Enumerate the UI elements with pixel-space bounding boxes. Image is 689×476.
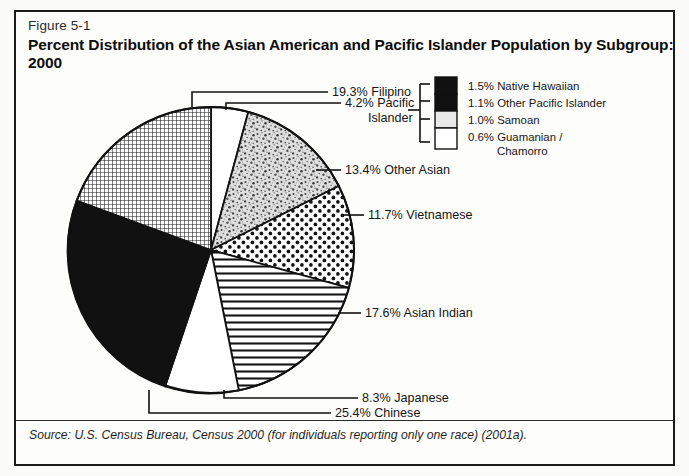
label-pacific-islander-line1: 4.2% Pacific	[345, 96, 414, 110]
legend-item-other-pacific-islander: 1.1% Other Pacific Islander	[468, 97, 606, 109]
legend-labels: 1.5% Native Hawaiian 1.1% Other Pacific …	[468, 80, 606, 157]
legend-item-native-hawaiian: 1.5% Native Hawaiian	[468, 80, 579, 92]
legend-swatch-native-hawaiian	[435, 77, 457, 94]
leader-line-chinese	[149, 390, 331, 413]
legend-swatch-other-pacific-islander	[435, 94, 457, 111]
legend-item-chamorro: Chamorro	[497, 145, 548, 157]
leader-line-filipino	[192, 92, 328, 107]
label-japanese: 8.3% Japanese	[362, 391, 449, 405]
label-asian-indian: 17.6% Asian Indian	[365, 306, 473, 320]
label-other-asian: 13.4% Other Asian	[345, 163, 450, 177]
label-pacific-islander-line2: Islander	[368, 111, 413, 125]
figure-container: Figure 5-1 Percent Distribution of the A…	[0, 0, 689, 476]
legend-item-samoan: 1.0% Samoan	[468, 114, 540, 126]
legend-swatches	[435, 77, 457, 149]
pie-chart: 19.3% Filipino 4.2% Pacific Islander 13.…	[16, 60, 673, 418]
legend-item-guamanian: 0.6% Guamanian /	[468, 131, 563, 143]
leader-line-pacific-islander	[226, 103, 341, 110]
label-chinese: 25.4% Chinese	[335, 406, 420, 418]
figure-number: Figure 5-1	[28, 18, 91, 33]
legend-swatch-guamanian-chamorro	[435, 128, 457, 149]
chart-area: 19.3% Filipino 4.2% Pacific Islander 13.…	[16, 60, 673, 418]
legend-swatch-samoan	[435, 111, 457, 128]
source-note: Source: U.S. Census Bureau, Census 2000 …	[29, 428, 527, 442]
label-vietnamese: 11.7% Vietnamese	[368, 208, 473, 222]
legend: 1.5% Native Hawaiian 1.1% Other Pacific …	[408, 77, 606, 157]
source-divider	[16, 420, 673, 421]
leader-line-japanese	[224, 390, 358, 398]
